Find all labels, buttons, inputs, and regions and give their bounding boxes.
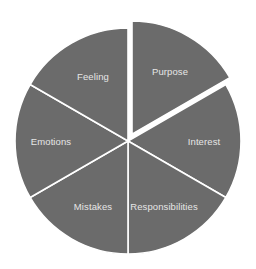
label-feeling: Feeling [77, 71, 109, 82]
pie-chart [0, 0, 256, 269]
label-responsibilities: Responsibilities [130, 201, 198, 212]
label-purpose: Purpose [152, 66, 188, 77]
label-mistakes: Mistakes [74, 201, 112, 212]
label-interest: Interest [188, 136, 220, 147]
label-emotions: Emotions [31, 136, 71, 147]
